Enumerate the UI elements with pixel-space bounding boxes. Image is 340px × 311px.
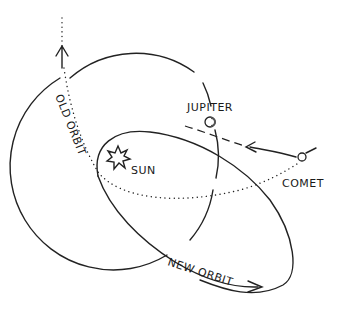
old-orbit-label: OLD ORBIT bbox=[52, 92, 88, 157]
comet-approach-path bbox=[185, 126, 316, 157]
sun-label: SUN bbox=[131, 164, 156, 177]
comet-label: COMET bbox=[282, 177, 324, 190]
comet-icon bbox=[298, 153, 306, 161]
jupiter-icon bbox=[205, 117, 215, 127]
old-orbit-path bbox=[56, 18, 300, 198]
new-orbit-label: NEW ORBIT bbox=[166, 255, 235, 288]
sun-icon bbox=[107, 146, 130, 169]
orbit-diagram: COMET JUPITER SUN OLD ORBIT NEW ORBIT bbox=[0, 0, 340, 311]
old-orbit-arrow-icon bbox=[56, 46, 68, 68]
jupiter-label: JUPITER bbox=[186, 101, 233, 114]
